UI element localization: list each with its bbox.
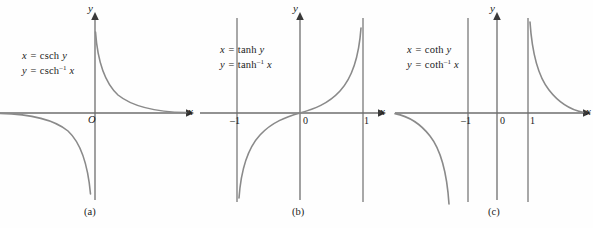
eq-sign: = — [228, 59, 235, 70]
panel-c-caption: (c) — [488, 206, 500, 217]
eq-argument: y — [62, 50, 67, 61]
coth-left-branch — [395, 114, 449, 204]
eq-lhs: x — [407, 44, 412, 55]
eq-argument: x — [70, 65, 75, 76]
y-axis-label: y — [293, 2, 298, 14]
eq-sign: = — [415, 59, 422, 70]
eq-function: coth — [425, 44, 444, 55]
panel-a-plot — [0, 0, 200, 228]
y-axis-label: y — [490, 2, 495, 14]
panel-a-equation-1: x = csch y — [22, 48, 74, 63]
panel-c-equations: x = coth y y = coth–1 x — [407, 42, 459, 72]
panel-b-plot — [200, 0, 395, 228]
eq-exponent: –1 — [59, 64, 66, 72]
x-tick-label-zero: 0 — [303, 115, 308, 126]
eq-function: coth — [425, 59, 444, 70]
panel-c-coth: x = coth y y = coth–1 x x y –1 0 1 (c) — [395, 0, 593, 228]
eq-lhs: x — [220, 44, 225, 55]
x-tick-label-neg1: –1 — [230, 115, 240, 126]
x-tick-label-zero: 0 — [500, 115, 505, 126]
eq-lhs: x — [22, 50, 27, 61]
panel-b-equation-1: x = tanh y — [220, 42, 272, 57]
eq-function: csch — [40, 50, 59, 61]
panel-b-equations: x = tanh y y = tanh–1 x — [220, 42, 272, 72]
csch-positive-branch — [96, 32, 187, 113]
eq-lhs: y — [220, 59, 225, 70]
eq-function: csch — [40, 65, 59, 76]
csch-negative-branch — [0, 113, 91, 194]
eq-argument: y — [447, 44, 452, 55]
eq-sign: = — [228, 44, 235, 55]
x-tick-label-neg1: –1 — [461, 115, 471, 126]
panel-c-plot — [395, 0, 593, 228]
eq-exponent: –1 — [257, 58, 264, 66]
panel-a-csch: x = csch y y = csch–1 x x y O (a) — [0, 0, 200, 228]
x-tick-label-pos1: 1 — [364, 115, 369, 126]
eq-lhs: y — [407, 59, 412, 70]
eq-sign: = — [415, 44, 422, 55]
eq-argument: x — [454, 59, 459, 70]
eq-function: tanh — [238, 59, 257, 70]
panel-a-equation-2: y = csch–1 x — [22, 63, 74, 78]
y-axis-label: y — [88, 2, 93, 14]
panel-b-tanh: x = tanh y y = tanh–1 x x y –1 0 1 (b) — [200, 0, 395, 228]
eq-sign: = — [30, 65, 37, 76]
panel-b-caption: (b) — [292, 206, 304, 217]
eq-exponent: –1 — [444, 58, 451, 66]
eq-sign: = — [30, 50, 37, 61]
eq-argument: y — [260, 44, 265, 55]
origin-label: O — [88, 114, 96, 125]
x-axis-label: x — [380, 105, 385, 117]
panel-b-equation-2: y = tanh–1 x — [220, 57, 272, 72]
panel-c-equation-1: x = coth y — [407, 42, 459, 57]
hyperbolic-inverse-figure: x = csch y y = csch–1 x x y O (a) — [0, 0, 593, 228]
x-tick-label-pos1: 1 — [530, 115, 535, 126]
panel-a-caption: (a) — [84, 206, 96, 217]
x-axis-label: x — [188, 105, 193, 117]
x-axis-label: x — [586, 105, 591, 117]
eq-function: tanh — [238, 44, 257, 55]
panel-c-equation-2: y = coth–1 x — [407, 57, 459, 72]
eq-argument: x — [267, 59, 272, 70]
coth-right-branch — [530, 22, 583, 112]
eq-lhs: y — [22, 65, 27, 76]
panel-a-equations: x = csch y y = csch–1 x — [22, 48, 74, 78]
